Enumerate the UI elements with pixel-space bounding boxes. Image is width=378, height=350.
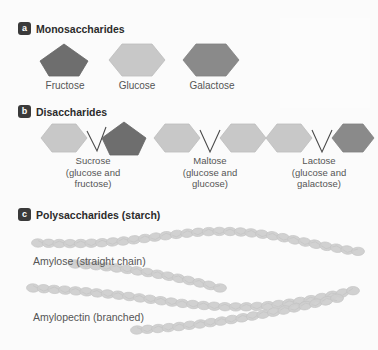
caption-sucrose-name: Sucrose <box>33 155 153 167</box>
caption-lactose: Lactose (glucose and galactose) <box>259 155 378 190</box>
label-galactose: Galactose <box>179 80 245 91</box>
section-title-polysaccharides: Polysaccharides (starch) <box>36 209 160 221</box>
section-heading-monosaccharides: a Monosaccharides <box>18 22 125 35</box>
section-heading-disaccharides: b Disaccharides <box>18 105 107 118</box>
label-amylose: Amylose (straight chain) <box>33 255 146 267</box>
carbohydrate-structures-figure: a Monosaccharides b Disaccharides c Poly… <box>0 0 378 350</box>
caption-maltose: Maltose (glucose and glucose) <box>150 155 270 190</box>
caption-sucrose-line1: (glucose and <box>33 167 153 179</box>
caption-sucrose: Sucrose (glucose and fructose) <box>33 155 153 190</box>
section-badge-c: c <box>18 208 31 221</box>
bond-sucrose <box>87 127 106 151</box>
caption-maltose-line2: glucose) <box>150 178 270 190</box>
shape-fructose-pentagon <box>40 44 88 76</box>
shape-lactose-glucose-hexagon <box>266 124 312 152</box>
caption-sucrose-line2: fructose) <box>33 178 153 190</box>
bond-lactose <box>312 130 332 152</box>
chain-amylopectin-main <box>26 283 359 311</box>
shape-lactose-galactose-hexagon <box>332 124 374 152</box>
caption-lactose-line1: (glucose and <box>259 167 378 179</box>
label-amylopectin: Amylopectin (branched) <box>33 311 144 323</box>
shape-sucrose-fructose-pentagon <box>102 122 146 155</box>
caption-maltose-name: Maltose <box>150 155 270 167</box>
section-badge-a: a <box>18 22 31 35</box>
section-heading-polysaccharides: c Polysaccharides (starch) <box>18 208 160 221</box>
caption-maltose-line1: (glucose and <box>150 167 270 179</box>
shape-glucose-hexagon <box>109 44 165 76</box>
shape-sucrose-glucose-hexagon <box>41 124 87 152</box>
shape-galactose-hexagon <box>183 44 239 76</box>
section-title-monosaccharides: Monosaccharides <box>36 23 125 35</box>
section-title-disaccharides: Disaccharides <box>36 106 107 118</box>
bond-maltose <box>200 130 220 152</box>
caption-lactose-line2: galactose) <box>259 178 378 190</box>
label-glucose: Glucose <box>106 80 168 91</box>
section-badge-b: b <box>18 105 31 118</box>
caption-lactose-name: Lactose <box>259 155 378 167</box>
chain-amylopectin-branch-lower <box>130 294 343 334</box>
chain-amylose-straight <box>31 227 364 256</box>
shape-maltose-glucose-right <box>220 124 266 152</box>
shape-maltose-glucose-left <box>154 124 200 152</box>
label-fructose: Fructose <box>34 80 96 91</box>
page-bleedthrough-watermark <box>280 18 370 108</box>
